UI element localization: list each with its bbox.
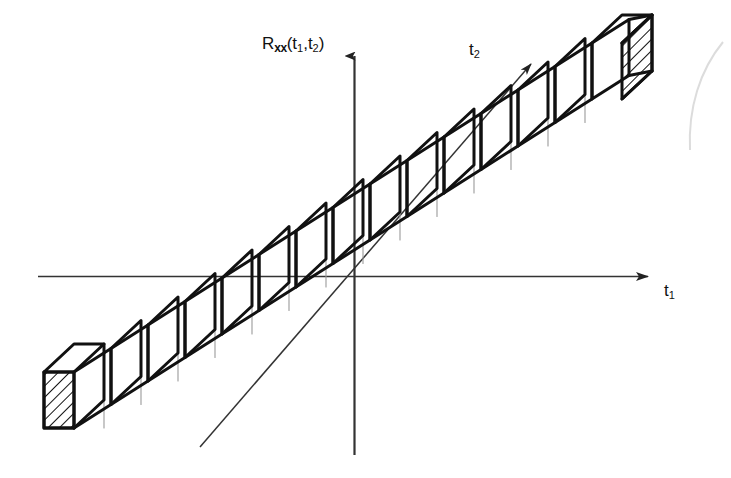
t2-subscript: 2 xyxy=(474,48,480,60)
correlation-ridge-figure: Rxx(t1,t2) t2 t1 xyxy=(0,0,731,478)
visible-edges xyxy=(44,15,652,428)
t1-subscript: 1 xyxy=(669,289,675,301)
scan-artifact-curve xyxy=(690,42,723,150)
value-axis-label: Rxx(t1,t2) xyxy=(262,34,324,55)
t1-axis-label: t1 xyxy=(664,281,675,301)
hidden-edges xyxy=(74,43,629,428)
box-ridge-group xyxy=(44,15,652,428)
figure-canvas xyxy=(0,0,731,478)
label-comma: ,t xyxy=(303,34,312,53)
left-end-cap-hatched xyxy=(44,372,74,428)
label-r: R xyxy=(262,34,274,53)
label-close: ) xyxy=(319,34,325,53)
label-xx: xx xyxy=(274,41,286,55)
label-open: (t xyxy=(287,34,297,53)
t2-axis-label: t2 xyxy=(469,40,480,60)
